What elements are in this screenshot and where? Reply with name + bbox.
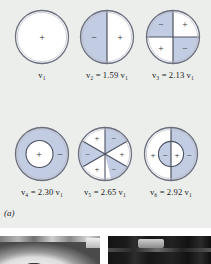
mode-1-diagram: + xyxy=(13,8,71,66)
mode-cell-5: + − + − + − v₅ = 2.65 v₁ xyxy=(70,125,140,225)
svg-text:−: − xyxy=(86,149,91,159)
svg-text:−: − xyxy=(158,20,163,30)
mode-4-label: v₄ = 2.30 v₁ xyxy=(7,187,77,197)
mode-row-bottom: + − v₄ = 2.30 v₁ xyxy=(0,125,211,225)
mode-2-label: v₂ = 1.59 v₁ xyxy=(72,70,142,80)
svg-text:−: − xyxy=(112,133,117,143)
mode-2-diagram: − + xyxy=(78,8,136,66)
panel-caption: (a) xyxy=(4,208,15,218)
svg-text:+: + xyxy=(120,149,125,159)
mode-cell-1: + v₁ xyxy=(7,8,77,108)
svg-text:−: − xyxy=(186,150,191,160)
circular-membrane-photograph xyxy=(0,236,100,264)
mode-row-top: + v₁ − xyxy=(0,8,211,108)
photo-strip xyxy=(0,236,211,264)
figure-page: + v₁ − xyxy=(0,0,211,264)
svg-text:+: + xyxy=(95,164,100,174)
svg-text:−: − xyxy=(91,32,97,43)
mode-cell-6: + − + − v₆ = 2.92 v₁ xyxy=(136,125,206,225)
mode-4-diagram: + − xyxy=(13,125,71,183)
svg-text:−: − xyxy=(182,44,187,54)
mode-5-diagram: + − + − + − xyxy=(76,125,134,183)
mode-3-label: v₃ = 2.13 v₁ xyxy=(138,70,208,80)
svg-text:+: + xyxy=(95,133,100,143)
svg-text:+: + xyxy=(36,149,42,160)
mode-cell-3: − + + − v₃ = 2.13 v₁ xyxy=(138,8,208,108)
svg-text:−: − xyxy=(112,164,117,174)
svg-text:+: + xyxy=(117,32,123,43)
mode-1-label: v₁ xyxy=(7,70,77,80)
dark-vibration-photograph xyxy=(108,236,211,264)
mode-6-diagram: + − + − xyxy=(142,125,200,183)
svg-text:−: − xyxy=(57,149,63,160)
svg-text:+: + xyxy=(158,44,163,54)
svg-text:+: + xyxy=(174,150,179,160)
mode-cell-4: + − v₄ = 2.30 v₁ xyxy=(7,125,77,225)
mode-6-label: v₆ = 2.92 v₁ xyxy=(136,187,206,197)
vibration-modes-panel: + v₁ − xyxy=(0,0,211,228)
svg-text:−: − xyxy=(162,150,167,160)
svg-text:+: + xyxy=(150,150,155,160)
mode-5-label: v₅ = 2.65 v₁ xyxy=(70,187,140,197)
mode-3-diagram: − + + − xyxy=(144,8,202,66)
svg-text:+: + xyxy=(182,20,187,30)
svg-text:+: + xyxy=(39,32,45,43)
mode-cell-2: − + v₂ = 1.59 v₁ xyxy=(72,8,142,108)
photo-glare xyxy=(86,238,100,248)
